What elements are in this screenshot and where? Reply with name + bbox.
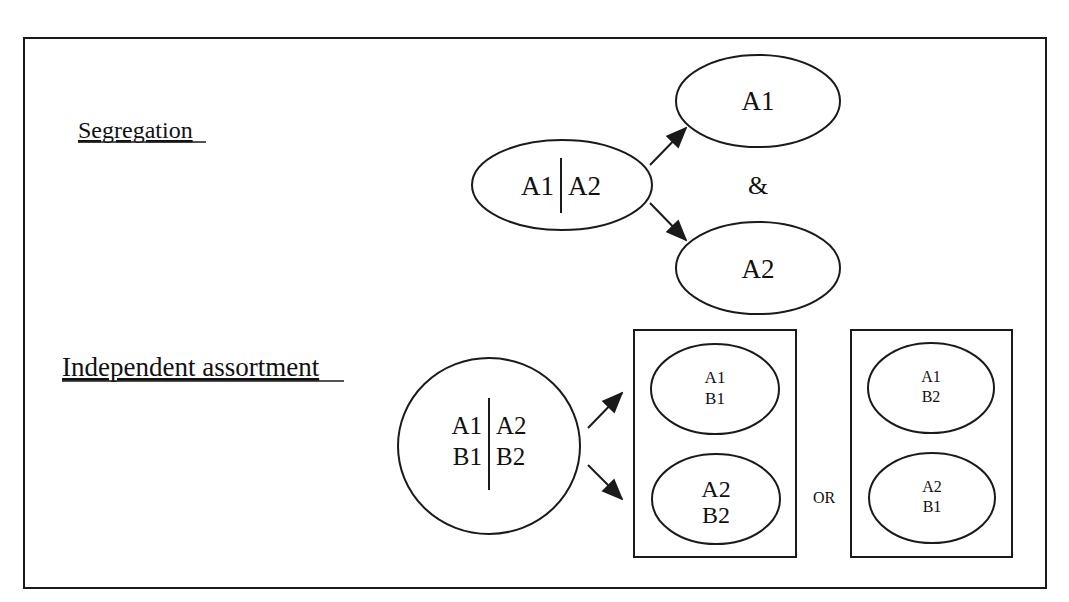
parent-allele-a-right: A2 xyxy=(496,412,527,439)
gamete-node: A1 B1 xyxy=(651,344,779,434)
gamete-line-1: A2 xyxy=(701,476,730,502)
parent-allele-b-left: B1 xyxy=(453,443,482,470)
gamete-line-2: B2 xyxy=(702,502,730,528)
arrow-up-icon xyxy=(588,393,622,428)
segregation-offspring-1: A1 xyxy=(676,55,840,147)
segregation-section: Segregation A1 A2 A1 & A2 xyxy=(78,55,840,314)
gamete-option-group-2: A1 B2 A2 B1 xyxy=(851,330,1012,557)
parent-allele-right: A2 xyxy=(568,171,601,201)
genetics-diagram: Segregation A1 A2 A1 & A2 Independent as… xyxy=(0,0,1069,602)
conjunction-symbol: & xyxy=(748,171,768,200)
gamete-line-2: B1 xyxy=(923,498,942,515)
gamete-node: A1 B2 xyxy=(868,343,994,433)
parent-allele-left: A1 xyxy=(521,171,554,201)
or-separator: OR xyxy=(813,489,836,506)
arrow-down-icon xyxy=(650,203,686,240)
gamete-node: A2 B1 xyxy=(869,453,995,543)
gamete-option-group-1: A1 B1 A2 B2 xyxy=(634,330,796,557)
segregation-heading: Segregation xyxy=(78,117,193,143)
arrow-up-icon xyxy=(650,128,686,165)
gamete-line-1: A2 xyxy=(922,478,942,495)
gamete-line-1: A1 xyxy=(705,368,726,387)
parent-allele-b-right: B2 xyxy=(496,443,525,470)
assortment-parent-node: A1 A2 B1 B2 xyxy=(398,358,580,534)
segregation-offspring-2: A2 xyxy=(676,222,840,314)
independent-assortment-heading: Independent assortment xyxy=(62,352,320,382)
gamete-line-2: B1 xyxy=(705,389,725,408)
offspring-label: A2 xyxy=(742,254,775,284)
independent-assortment-section: Independent assortment A1 A2 B1 B2 A1 B1… xyxy=(62,330,1012,557)
offspring-label: A1 xyxy=(742,86,775,116)
arrow-down-icon xyxy=(588,465,622,499)
segregation-parent-node: A1 A2 xyxy=(472,140,652,230)
gamete-line-1: A1 xyxy=(921,368,941,385)
gamete-node: A2 B2 xyxy=(652,454,780,544)
gamete-line-2: B2 xyxy=(922,388,941,405)
parent-allele-a-left: A1 xyxy=(451,412,482,439)
